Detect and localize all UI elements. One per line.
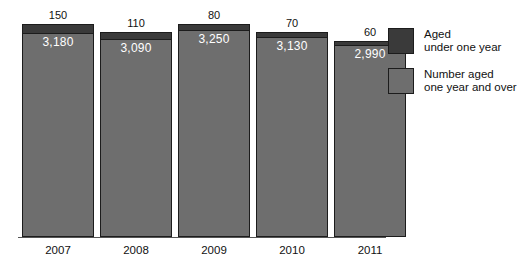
legend-label-line1: Aged [424, 28, 501, 41]
dark-swatch-icon [388, 28, 414, 54]
bar-group-2010[interactable]: 70 3,130 2010 [256, 32, 328, 237]
light-swatch-icon [388, 68, 414, 94]
segment-aged-under-one-year-2008[interactable] [101, 33, 171, 40]
light-value-label-2008: 3,090 [101, 41, 171, 55]
segment-aged-under-one-year-2007[interactable] [23, 25, 93, 34]
legend-label-line1: Number aged [424, 68, 517, 81]
legend-item-aged-one-year-and-over[interactable]: Number aged one year and over [388, 68, 520, 94]
segment-aged-one-year-and-over-2008[interactable]: 3,090 [101, 40, 171, 236]
legend-label-line2: one year and over [424, 81, 517, 94]
stacked-bar-2007[interactable]: 3,180 [22, 24, 94, 237]
bar-group-2008[interactable]: 110 3,090 2008 [100, 32, 172, 237]
chart-legend: Aged under one year Number aged one year… [388, 28, 520, 108]
light-value-label-2009: 3,250 [179, 32, 249, 46]
light-value-label-2007: 3,180 [23, 35, 93, 49]
bar-group-2009[interactable]: 80 3,250 2009 [178, 24, 250, 237]
light-value-label-2010: 3,130 [257, 39, 327, 53]
segment-aged-one-year-and-over-2009[interactable]: 3,250 [179, 31, 249, 236]
segment-aged-one-year-and-over-2010[interactable]: 3,130 [257, 38, 327, 236]
legend-label-aged-under-one-year: Aged under one year [424, 28, 501, 54]
x-axis-baseline [18, 237, 386, 238]
stacked-bar-2008[interactable]: 3,090 [100, 32, 172, 237]
plot-area: 150 3,180 2007 110 3,090 2008 80 [0, 0, 400, 262]
stacked-bar-2009[interactable]: 3,250 [178, 24, 250, 237]
stacked-column-chart: 150 3,180 2007 110 3,090 2008 80 [0, 0, 520, 262]
bar-group-2007[interactable]: 150 3,180 2007 [22, 24, 94, 237]
segment-aged-one-year-and-over-2007[interactable]: 3,180 [23, 34, 93, 236]
legend-label-line2: under one year [424, 41, 501, 54]
stacked-bar-2010[interactable]: 3,130 [256, 32, 328, 237]
legend-item-aged-under-one-year[interactable]: Aged under one year [388, 28, 520, 54]
legend-label-aged-one-year-and-over: Number aged one year and over [424, 68, 517, 94]
category-label-2011: 2011 [322, 244, 418, 257]
